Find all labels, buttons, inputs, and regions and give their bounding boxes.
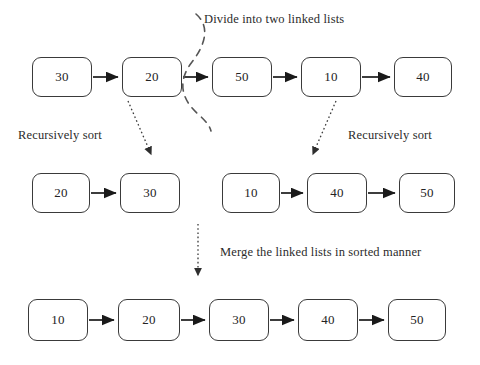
recursively-sort-left-caption: Recursively sort <box>18 128 102 143</box>
recursion-arrow-right <box>313 101 336 154</box>
node-merged-list-10: 10 <box>28 299 88 341</box>
node-left-sublist-sorted-20: 20 <box>32 173 90 213</box>
recursively-sort-right-caption: Recursively sort <box>348 128 432 143</box>
node-left-sublist-sorted-30: 30 <box>120 173 180 213</box>
node-merged-list-30: 30 <box>209 299 269 341</box>
node-original-list-10: 10 <box>301 57 361 97</box>
recursion-arrow-left <box>128 101 151 154</box>
divide-dashed-curve <box>183 14 211 131</box>
node-merged-list-20: 20 <box>118 299 180 341</box>
node-right-sublist-sorted-40: 40 <box>307 173 367 213</box>
merge-caption: Merge the linked lists in sorted manner <box>220 245 421 260</box>
node-right-sublist-sorted-50: 50 <box>399 173 455 213</box>
divide-caption: Divide into two linked lists <box>204 12 344 27</box>
node-right-sublist-sorted-10: 10 <box>222 173 280 213</box>
node-original-list-50: 50 <box>212 57 272 97</box>
node-original-list-40: 40 <box>394 57 452 97</box>
node-merged-list-40: 40 <box>298 299 358 341</box>
merge-sort-linked-list-diagram: Divide into two linked lists Recursively… <box>0 0 480 365</box>
node-original-list-20: 20 <box>122 57 182 97</box>
node-merged-list-50: 50 <box>388 299 446 341</box>
node-original-list-30: 30 <box>32 57 92 97</box>
